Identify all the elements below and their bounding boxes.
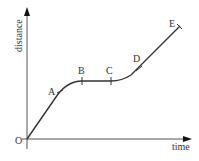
point-c-label: C [106,65,113,76]
point-b-label: B [78,65,85,76]
x-axis-label: time [172,141,190,152]
point-d-label: D [133,53,140,64]
y-axis-label: distance [13,19,24,52]
origin-label: O [15,135,22,146]
distance-curve [27,26,180,139]
point-e-label: E [169,18,175,29]
point-a-label: A [48,86,56,97]
distance-time-graph: O A B C D E time distance [0,0,199,161]
y-axis-arrow-icon [24,7,30,16]
